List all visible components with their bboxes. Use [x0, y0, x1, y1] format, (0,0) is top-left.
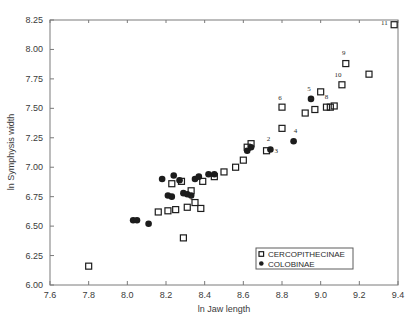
- data-point: [248, 144, 255, 151]
- data-point: [180, 235, 186, 241]
- point-label: 4: [294, 127, 298, 135]
- point-label: 9: [342, 49, 346, 57]
- y-tick-label: 6.50: [25, 221, 43, 231]
- y-tick-label: 6.25: [25, 251, 43, 261]
- data-point: [312, 107, 318, 113]
- data-points: [86, 22, 397, 269]
- y-tick-label: 7.50: [25, 103, 43, 113]
- data-point: [279, 125, 285, 131]
- x-tick-label: 8.0: [121, 290, 134, 300]
- point-label: 5: [307, 85, 311, 93]
- point-label: 10: [335, 71, 343, 79]
- data-point: [155, 209, 161, 215]
- legend-marker: [259, 261, 264, 266]
- point-label: 2: [267, 135, 271, 143]
- data-point: [145, 220, 152, 227]
- legend-label: CERCOPITHECINAE: [268, 250, 345, 259]
- data-point: [198, 205, 204, 211]
- data-point: [240, 157, 246, 163]
- y-tick-label: 7.75: [25, 74, 43, 84]
- data-point: [279, 104, 285, 110]
- point-label: 1: [189, 194, 193, 202]
- x-tick-label: 7.6: [44, 290, 57, 300]
- data-point: [159, 176, 166, 183]
- x-axis-title: ln Jaw length: [198, 304, 251, 314]
- data-point: [165, 208, 171, 214]
- data-point: [169, 193, 176, 200]
- y-tick-label: 8.25: [25, 15, 43, 25]
- data-point: [391, 22, 397, 28]
- x-tick-label: 8.8: [276, 290, 289, 300]
- scatter-plot-figure: 7.67.88.08.28.48.68.89.09.29.4 6.006.256…: [0, 0, 417, 328]
- data-point: [196, 173, 203, 180]
- x-tick-label: 7.8: [82, 290, 95, 300]
- y-axis-title: ln Symphysis width: [6, 114, 16, 191]
- x-tick-label: 9.2: [353, 290, 366, 300]
- point-label: 11: [381, 19, 388, 27]
- data-point: [233, 164, 239, 170]
- x-tick-label: 8.6: [237, 290, 250, 300]
- data-point: [169, 181, 175, 187]
- x-tick-label: 8.2: [160, 290, 173, 300]
- y-tick-label: 6.00: [25, 280, 43, 290]
- data-point: [176, 177, 183, 184]
- x-tick-label: 9.0: [314, 290, 327, 300]
- data-point: [339, 82, 345, 88]
- plot-canvas: 7.67.88.08.28.48.68.89.09.29.4 6.006.256…: [0, 0, 417, 328]
- data-point: [86, 263, 92, 269]
- y-tick-label: 7.25: [25, 133, 43, 143]
- data-point: [267, 146, 274, 153]
- data-point: [134, 217, 141, 224]
- data-point: [170, 172, 177, 179]
- x-tick-label: 8.4: [198, 290, 211, 300]
- data-point: [343, 61, 349, 67]
- point-label: 7: [309, 96, 313, 104]
- data-point: [184, 204, 190, 210]
- data-point: [173, 207, 179, 213]
- point-annotations: 1234567891011: [189, 19, 388, 202]
- data-point: [290, 138, 297, 145]
- data-point: [205, 171, 212, 178]
- y-tick-label: 6.75: [25, 192, 43, 202]
- point-label: 3: [274, 147, 278, 155]
- data-point: [302, 110, 308, 116]
- chart-legend: CERCOPITHECINAECOLOBINAE: [256, 248, 353, 269]
- point-label: 6: [278, 94, 282, 102]
- legend-label: COLOBINAE: [268, 260, 315, 269]
- data-point: [192, 200, 198, 206]
- plot-frame: [50, 20, 398, 285]
- data-point: [318, 89, 324, 95]
- point-label: 8: [325, 93, 329, 101]
- x-tick-label: 9.4: [392, 290, 405, 300]
- data-point: [221, 169, 227, 175]
- data-point: [323, 104, 329, 110]
- y-tick-label: 8.00: [25, 44, 43, 54]
- data-point: [211, 171, 218, 178]
- y-tick-label: 7.00: [25, 162, 43, 172]
- data-point: [366, 71, 372, 77]
